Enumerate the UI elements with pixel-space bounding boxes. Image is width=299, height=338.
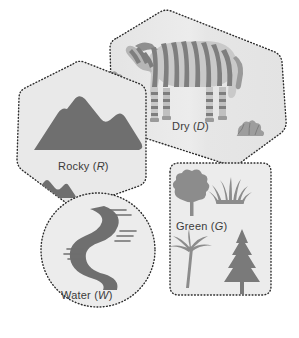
region-rocky[interactable] [17,61,146,207]
region-label-rocky: Rocky (R) [58,160,109,172]
diagram-canvas: Dry (D) Rocky (R) Water (W) Green (G) [0,0,299,338]
region-label-water: Water (W) [61,289,113,301]
venn-diagram-svg [0,0,299,338]
region-label-green: Green (G) [176,220,227,232]
region-label-dry: Dry (D) [172,120,209,132]
